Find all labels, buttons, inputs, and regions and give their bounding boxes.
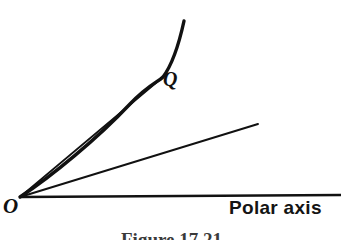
polar-curve	[20, 21, 184, 197]
polar-axis-label: Polar axis	[229, 198, 322, 217]
ray-line	[20, 124, 258, 197]
figure-container: O Q Polar axis Figure 17.21	[0, 0, 343, 240]
origin-label-o: O	[3, 196, 18, 217]
point-label-q: Q	[163, 69, 177, 89]
figure-caption-clip: Figure 17.21	[0, 232, 343, 240]
figure-caption: Figure 17.21	[0, 232, 343, 240]
